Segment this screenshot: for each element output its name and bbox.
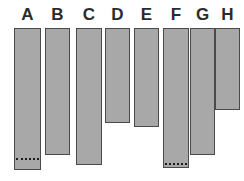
bar-label-b: B [45,6,70,23]
bar-label-f: F [163,6,189,23]
bar-group-g: G [190,0,215,181]
plot-area: ABCDEFGH [0,0,244,181]
bar-label-a: A [14,6,41,23]
bar-label-c: C [76,6,102,23]
bar-label-h: H [215,6,240,23]
bar-group-d: D [105,0,130,181]
bar-group-h: H [215,0,240,181]
bar-f [163,28,189,168]
bar-d [105,28,130,123]
bar-group-c: C [76,0,102,181]
bar-e [134,28,159,127]
bar-group-f: F [163,0,189,181]
bar-label-d: D [105,6,130,23]
bar-h [215,28,240,110]
bar-group-e: E [134,0,159,181]
bar-c [76,28,102,165]
bar-group-b: B [45,0,70,181]
bar-g [190,28,215,155]
bar-label-e: E [134,6,159,23]
bar-marker-f [165,163,187,165]
bar-group-a: A [14,0,41,181]
bar-a [14,28,41,170]
bar-b [45,28,70,155]
bar-label-g: G [190,6,215,23]
bar-marker-a [16,158,39,160]
bar-chart: ABCDEFGH [0,0,244,181]
